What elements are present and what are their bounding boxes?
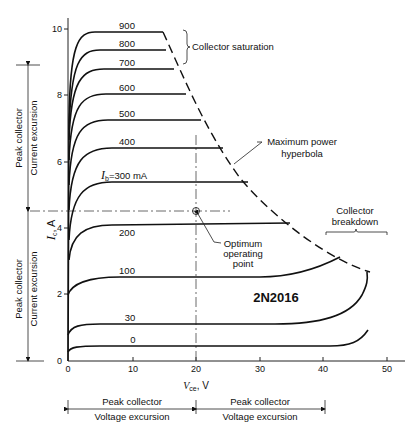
breakdown-brace: [326, 229, 387, 235]
max-power-label-line1: Maximum power: [267, 136, 337, 147]
transistor-characteristic-chart: 10 8 6 4 2 0 0 10 20 30 40 50 Vce, V Ic,…: [0, 0, 420, 434]
label-500: 500: [119, 108, 135, 119]
saturation-brace: [183, 30, 190, 64]
peak-voltage-right-line1: Peak collector: [230, 396, 290, 407]
x-tick-labels: 0 10 20 30 40 50: [65, 364, 392, 374]
peak-current-top-line2: Current excursion: [28, 101, 39, 176]
optimum-leader: [198, 214, 221, 243]
collector-saturation-label: Collector saturation: [192, 41, 274, 52]
label-900: 900: [119, 20, 135, 31]
y-tick-10: 10: [52, 24, 62, 34]
y-axis-title: Ic, A: [43, 219, 58, 241]
curve-ib-30: [68, 272, 367, 335]
y-tick-labels: 10 8 6 4 2 0: [52, 24, 62, 366]
peak-current-excursion-bottom: Peak collector Current excursion: [13, 211, 44, 361]
y-tick-6: 6: [57, 157, 62, 167]
label-600: 600: [119, 82, 135, 93]
curve-ib-900: [68, 32, 163, 361]
curve-ib-800: [69, 50, 166, 130]
peak-current-excursion-top: Peak collector Current excursion: [13, 65, 40, 211]
label-30: 30: [125, 312, 136, 323]
curve-ib-100: [68, 257, 340, 295]
y-tick-4: 4: [57, 223, 62, 233]
peak-voltage-left-line2: Voltage excursion: [95, 411, 170, 422]
y-tick-2: 2: [57, 289, 62, 299]
peak-current-bottom-line2: Current excursion: [28, 252, 39, 327]
x-axis-title: Vce, V: [183, 380, 209, 392]
x-tick-40: 40: [318, 364, 328, 374]
curve-ib-700: [69, 69, 174, 140]
x-tick-10: 10: [128, 364, 138, 374]
x-tick-20: 20: [191, 364, 201, 374]
x-tick-30: 30: [255, 364, 265, 374]
curve-ib-600: [69, 94, 186, 160]
x-tick-0: 0: [65, 364, 70, 374]
y-tick-8: 8: [57, 90, 62, 100]
x-tick-50: 50: [382, 364, 392, 374]
optimum-label-line3: point: [233, 258, 254, 269]
max-power-hyperbola: [163, 32, 370, 272]
ib-curves: [68, 32, 368, 361]
peak-voltage-right-line2: Voltage excursion: [223, 411, 298, 422]
peak-voltage-excursion: Peak collector Voltage excursion Peak co…: [68, 396, 325, 422]
label-ib-300: Ib=300 mA: [100, 168, 148, 182]
y-tick-0: 0: [57, 356, 62, 366]
label-700: 700: [119, 57, 135, 68]
curve-ib-0: [68, 330, 368, 352]
breakdown-label-line2: breakdown: [332, 216, 378, 227]
label-0: 0: [130, 334, 135, 345]
breakdown-label-line1: Collector: [336, 205, 374, 216]
max-power-leader: [234, 142, 262, 164]
peak-current-top-line1: Peak collector: [13, 108, 24, 168]
peak-current-bottom-line1: Peak collector: [13, 259, 24, 319]
label-200: 200: [119, 227, 135, 238]
max-power-label-line2: hyperbola: [281, 148, 323, 159]
label-400: 400: [119, 136, 135, 147]
label-800: 800: [119, 38, 135, 49]
device-label: 2N2016: [253, 290, 299, 305]
label-100: 100: [119, 265, 135, 276]
peak-voltage-left-line1: Peak collector: [102, 396, 162, 407]
